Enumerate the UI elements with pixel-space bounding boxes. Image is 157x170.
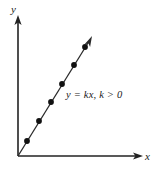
data-point [82, 44, 88, 50]
data-point [24, 138, 30, 144]
coordinate-plane-svg [0, 0, 157, 170]
data-point [59, 81, 65, 87]
x-axis-label: x [145, 151, 150, 162]
line-equation-label: y = kx, k > 0 [66, 90, 122, 101]
y-axis-label: y [11, 4, 16, 15]
data-point [36, 118, 42, 124]
data-point [71, 62, 77, 68]
graph-figure: y x y = kx, k > 0 [0, 0, 157, 170]
data-point [48, 99, 54, 105]
